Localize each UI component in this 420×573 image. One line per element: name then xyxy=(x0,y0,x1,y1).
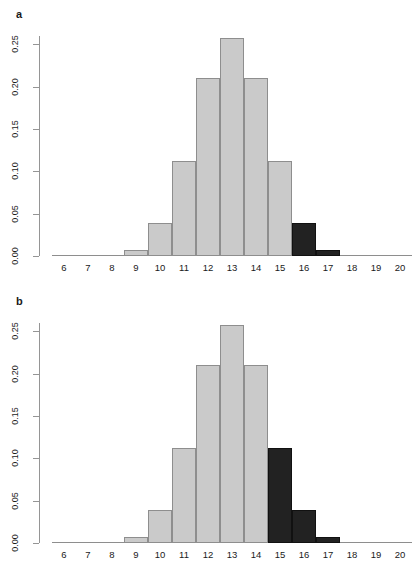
bar-7 xyxy=(76,255,100,256)
y-axis-tick-label: 0.25 xyxy=(10,29,20,59)
bar-slot-9 xyxy=(124,323,148,543)
bar-slot-17 xyxy=(316,323,340,543)
bar-slot-9 xyxy=(124,36,148,256)
x-axis-tick-label: 12 xyxy=(196,262,220,274)
bar-slot-15 xyxy=(268,323,292,543)
bar-19 xyxy=(364,542,388,543)
x-axis-tick-label: 16 xyxy=(292,549,316,561)
y-axis-tick xyxy=(33,331,39,332)
y-axis-tick xyxy=(33,87,39,88)
bar-10 xyxy=(148,223,172,256)
x-axis-tick-label: 8 xyxy=(100,549,124,561)
x-axis-tick-label: 17 xyxy=(316,262,340,274)
plot-area-b: 0.000.050.100.150.200.25 678910111213141… xyxy=(0,287,420,573)
bar-slot-16 xyxy=(292,323,316,543)
y-axis-line-b xyxy=(39,323,40,543)
x-axis-tick-label: 7 xyxy=(76,549,100,561)
bar-series-b xyxy=(52,323,412,543)
bar-slot-18 xyxy=(340,323,364,543)
bar-15 xyxy=(268,448,292,543)
plot-area-a: 0.000.050.100.150.200.25 678910111213141… xyxy=(0,0,420,286)
x-axis-tick-label: 9 xyxy=(124,262,148,274)
y-axis-tick xyxy=(33,501,39,502)
x-axis-tick-label: 14 xyxy=(244,549,268,561)
bar-17 xyxy=(316,537,340,543)
bar-12 xyxy=(196,365,220,543)
y-axis-tick-label: 0.00 xyxy=(10,528,20,558)
x-axis-tick-label: 19 xyxy=(364,262,388,274)
y-axis-tick xyxy=(33,214,39,215)
bar-slot-10 xyxy=(148,36,172,256)
panel-a: a 0.000.050.100.150.200.25 6789101112131… xyxy=(0,0,420,286)
y-axis-tick xyxy=(33,374,39,375)
x-axis-tick-label: 19 xyxy=(364,549,388,561)
bar-slot-14 xyxy=(244,323,268,543)
bar-slot-15 xyxy=(268,36,292,256)
y-axis-tick-label: 0.20 xyxy=(10,72,20,102)
x-axis-tick-label: 16 xyxy=(292,262,316,274)
x-axis-tick-label: 15 xyxy=(268,549,292,561)
x-axis-tick-label: 11 xyxy=(172,262,196,274)
bar-7 xyxy=(76,542,100,543)
x-axis-tick-label: 11 xyxy=(172,549,196,561)
y-axis-line-a xyxy=(39,36,40,256)
bar-slot-11 xyxy=(172,323,196,543)
bar-slot-8 xyxy=(100,323,124,543)
y-axis-tick-label: 0.15 xyxy=(10,401,20,431)
y-axis-tick xyxy=(33,458,39,459)
x-axis-tick-label: 14 xyxy=(244,262,268,274)
x-axis-tick-label: 9 xyxy=(124,549,148,561)
bar-slot-19 xyxy=(364,36,388,256)
bar-slot-12 xyxy=(196,36,220,256)
bar-slot-17 xyxy=(316,36,340,256)
y-axis-tick-label: 0.15 xyxy=(10,114,20,144)
bar-slot-7 xyxy=(76,323,100,543)
x-axis-tick-label: 6 xyxy=(52,262,76,274)
y-axis-tick-label: 0.25 xyxy=(10,316,20,346)
x-axis-tick-label: 18 xyxy=(340,262,364,274)
bar-slot-12 xyxy=(196,323,220,543)
bar-8 xyxy=(100,255,124,256)
y-axis-tick xyxy=(33,129,39,130)
bar-slot-7 xyxy=(76,36,100,256)
bar-slot-14 xyxy=(244,36,268,256)
bar-slot-20 xyxy=(388,323,412,543)
x-axis-tick-label: 18 xyxy=(340,549,364,561)
bar-6 xyxy=(52,542,76,543)
bar-slot-13 xyxy=(220,323,244,543)
bar-slot-8 xyxy=(100,36,124,256)
y-axis-tick xyxy=(33,171,39,172)
x-axis-tick-label: 10 xyxy=(148,262,172,274)
bar-12 xyxy=(196,78,220,256)
y-axis-tick-label: 0.00 xyxy=(10,241,20,271)
bar-slot-11 xyxy=(172,36,196,256)
bar-9 xyxy=(124,537,148,543)
bar-11 xyxy=(172,161,196,256)
bar-slot-6 xyxy=(52,36,76,256)
bar-13 xyxy=(220,38,244,256)
bar-20 xyxy=(388,542,412,543)
bar-17 xyxy=(316,250,340,256)
bar-slot-18 xyxy=(340,36,364,256)
bar-slot-10 xyxy=(148,323,172,543)
y-axis-tick xyxy=(33,44,39,45)
bar-19 xyxy=(364,255,388,256)
y-axis-tick xyxy=(33,543,39,544)
y-axis-tick-label: 0.05 xyxy=(10,199,20,229)
bar-slot-16 xyxy=(292,36,316,256)
y-axis-tick xyxy=(33,256,39,257)
bar-18 xyxy=(340,542,364,543)
bar-16 xyxy=(292,223,316,256)
x-axis-tick-label: 15 xyxy=(268,262,292,274)
bar-8 xyxy=(100,542,124,543)
bar-9 xyxy=(124,250,148,256)
y-axis-tick-label: 0.10 xyxy=(10,443,20,473)
bar-16 xyxy=(292,510,316,543)
bar-14 xyxy=(244,365,268,543)
x-axis-tick-label: 8 xyxy=(100,262,124,274)
panel-b: b 0.000.050.100.150.200.25 6789101112131… xyxy=(0,287,420,573)
y-axis-tick-label: 0.20 xyxy=(10,359,20,389)
bar-10 xyxy=(148,510,172,543)
x-axis-tick-label: 10 xyxy=(148,549,172,561)
bar-20 xyxy=(388,255,412,256)
